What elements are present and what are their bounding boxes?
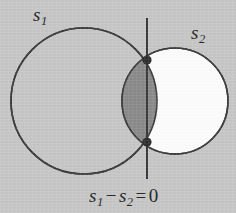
label-s1-base: s: [33, 4, 40, 25]
label-equation: s1−s2=0: [89, 186, 158, 205]
label-right-circle-s2: s2: [191, 23, 205, 42]
equation-equals-sign: =: [136, 185, 147, 206]
intersection-point-bottom: [142, 137, 151, 146]
figure-root: s1 s2 s1−s2=0: [0, 0, 236, 213]
equation-value: 0: [149, 185, 159, 206]
intersection-point-top: [142, 55, 151, 64]
equation-term2-base: s: [119, 185, 126, 206]
equation-term2-subscript: 2: [127, 195, 133, 209]
equation-term1-subscript: 1: [97, 195, 103, 209]
equation-term1-base: s: [89, 185, 96, 206]
label-s2-subscript: 2: [199, 32, 205, 46]
label-s1-subscript: 1: [41, 14, 47, 28]
label-left-circle-s1: s1: [33, 5, 47, 24]
label-s2-base: s: [191, 22, 198, 43]
equation-minus-operator: −: [106, 185, 117, 206]
